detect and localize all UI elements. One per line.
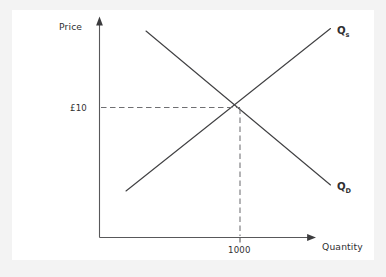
- y-axis-title: Price: [59, 21, 82, 32]
- supply-curve-label: Q s: [337, 25, 350, 39]
- supply-curve-label-sub: s: [346, 31, 350, 39]
- curves-group: [126, 29, 331, 192]
- y-axis-arrow-icon: [96, 17, 103, 26]
- x-axis-arrow-icon: [307, 234, 316, 241]
- x-axis-title: Quantity: [322, 241, 363, 252]
- axis-group: [96, 17, 316, 241]
- supply-curve-line[interactable]: [126, 29, 331, 192]
- supply-demand-chart: Price Quantity £10 1000 Q s Q D: [12, 10, 374, 260]
- demand-curve-label-sub: D: [346, 187, 352, 195]
- y-axis-tick-label: £10: [70, 103, 87, 113]
- demand-curve-label: Q D: [337, 181, 352, 195]
- x-axis-tick-label: 1000: [228, 245, 251, 255]
- figure-frame: Price Quantity £10 1000 Q s Q D: [0, 0, 386, 277]
- chart-panel: Price Quantity £10 1000 Q s Q D: [12, 10, 374, 260]
- equilibrium-guides-group: [101, 108, 240, 237]
